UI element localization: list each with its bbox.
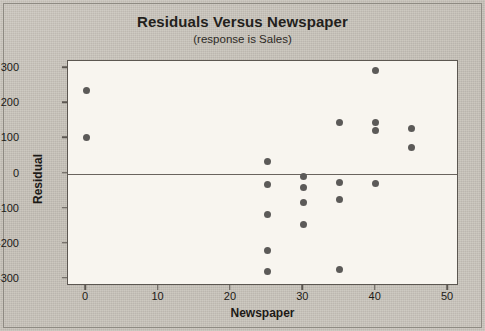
- x-tick-label: 20: [224, 290, 236, 302]
- x-tick-mark: [374, 285, 376, 290]
- y-tick-label: 100: [1, 131, 19, 143]
- data-point: [372, 119, 379, 126]
- data-point: [372, 127, 379, 134]
- data-point: [336, 196, 343, 203]
- data-point: [372, 67, 379, 74]
- y-tick-label: 0: [13, 167, 19, 179]
- chart-subtitle: (response is Sales): [0, 33, 485, 45]
- x-tick-mark: [446, 285, 448, 290]
- data-point: [264, 247, 271, 254]
- plot-area: [67, 60, 458, 285]
- x-tick-label: 10: [151, 290, 163, 302]
- y-tick-label: -200: [0, 237, 19, 249]
- data-point: [300, 184, 307, 191]
- x-tick-mark: [84, 285, 86, 290]
- x-tick-label: 0: [82, 290, 88, 302]
- data-point: [408, 125, 415, 132]
- y-tick-label: -100: [0, 202, 19, 214]
- data-point: [372, 180, 379, 187]
- x-tick-mark: [302, 285, 304, 290]
- data-point: [264, 181, 271, 188]
- y-tick-label: 200: [1, 96, 19, 108]
- x-tick-mark: [229, 285, 231, 290]
- data-point: [300, 173, 307, 180]
- data-point: [408, 144, 415, 151]
- y-tick-label: -300: [0, 272, 19, 284]
- data-point: [336, 266, 343, 273]
- data-point: [300, 221, 307, 228]
- x-tick-mark: [157, 285, 159, 290]
- x-tick-label: 50: [441, 290, 453, 302]
- data-point: [83, 134, 90, 141]
- data-point: [264, 158, 271, 165]
- x-tick-label: 30: [296, 290, 308, 302]
- plot-inner: [68, 61, 457, 284]
- data-point: [264, 211, 271, 218]
- data-point: [83, 87, 90, 94]
- data-point: [300, 199, 307, 206]
- data-point: [264, 268, 271, 275]
- x-tick-label: 40: [369, 290, 381, 302]
- zero-reference-line: [68, 174, 457, 176]
- chart-title: Residuals Versus Newspaper: [0, 13, 485, 30]
- chart-page: Residuals Versus Newspaper (response is …: [0, 0, 485, 331]
- y-axis-label: Residual: [31, 119, 45, 239]
- y-tick-label: 300: [1, 61, 19, 73]
- data-point: [336, 119, 343, 126]
- data-point: [336, 179, 343, 186]
- x-axis-label: Newspaper: [67, 306, 458, 320]
